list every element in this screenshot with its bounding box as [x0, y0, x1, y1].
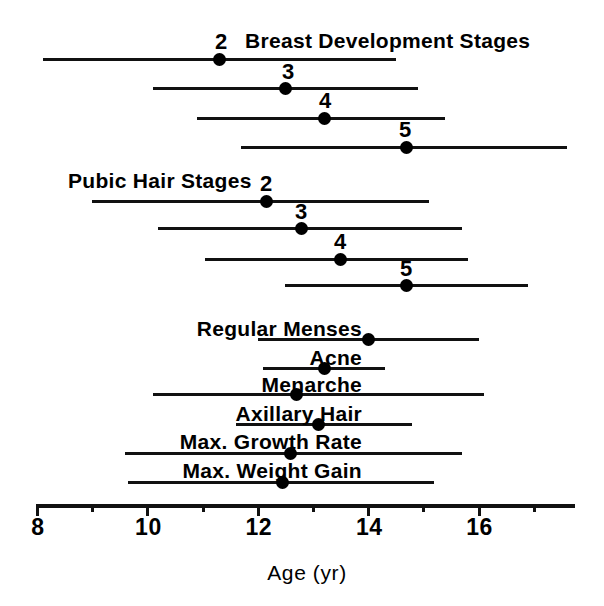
range-bar	[158, 227, 462, 230]
x-axis-tick-label: 16	[466, 516, 493, 539]
x-axis-tick-label: 14	[356, 516, 383, 539]
stage-number-label: 4	[334, 231, 346, 253]
event-row-label: Acne	[309, 347, 362, 368]
puberty-milestones-chart: Breast Development StagesPubic Hair Stag…	[0, 0, 604, 606]
event-row-label: Regular Menses	[197, 318, 362, 339]
x-axis-line	[37, 504, 575, 508]
stage-number-label: 5	[399, 119, 411, 141]
x-axis-tick-minor	[533, 504, 536, 512]
x-axis-tick-minor	[202, 504, 205, 512]
mean-dot	[334, 253, 347, 266]
x-axis-tick-minor	[91, 504, 94, 512]
x-axis-tick-label: 12	[246, 516, 273, 539]
event-row-label: Max. Weight Gain	[183, 460, 362, 481]
mean-dot	[213, 53, 226, 66]
event-row-label: Axillary Hair	[236, 403, 362, 424]
stage-number-label: 2	[215, 31, 227, 53]
group-title-pubic: Pubic Hair Stages	[68, 170, 252, 191]
event-row-label: Menarche	[262, 374, 362, 395]
stage-number-label: 3	[282, 61, 294, 83]
stage-number-label: 4	[319, 90, 331, 112]
stage-number-label: 2	[260, 173, 272, 195]
mean-dot	[318, 112, 331, 125]
plot-area: Breast Development StagesPubic Hair Stag…	[0, 0, 604, 606]
mean-dot	[362, 333, 375, 346]
mean-dot	[260, 195, 273, 208]
event-row-label: Max. Growth Rate	[180, 431, 362, 452]
mean-dot	[400, 141, 413, 154]
x-axis-tick-label: 10	[135, 516, 162, 539]
stage-number-label: 3	[295, 201, 307, 223]
x-axis-tick-minor	[422, 504, 425, 512]
x-axis-tick-minor	[312, 504, 315, 512]
x-axis-title: Age (yr)	[267, 562, 346, 583]
x-axis-tick-label: 8	[31, 516, 44, 539]
stage-number-label: 5	[400, 258, 412, 280]
group-title-breast: Breast Development Stages	[245, 30, 530, 51]
